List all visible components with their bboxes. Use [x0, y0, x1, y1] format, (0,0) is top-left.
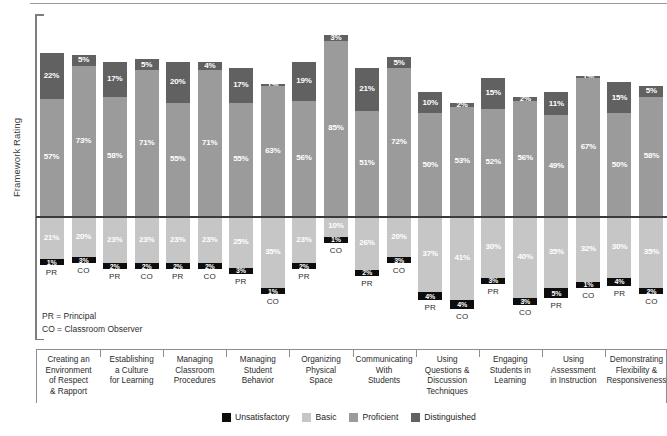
segment-proficient: 58% [103, 97, 127, 216]
segment-basic: 23% [135, 216, 159, 263]
chart-legend: UnsatisfactoryBasicProficientDistinguish… [222, 412, 476, 422]
stacked-bar[interactable]: 1%63%35%1% [261, 10, 285, 342]
segment-value-label: 15% [612, 94, 627, 102]
segment-proficient: 71% [198, 70, 222, 216]
segment-value-label: 23% [296, 236, 311, 244]
segment-value-label: 57% [44, 153, 59, 161]
legend-swatch-icon [411, 413, 420, 422]
bar-rater-tag: CO [72, 266, 96, 275]
category-label-line: in Instruction [542, 376, 605, 387]
segment-distinguished: 10% [418, 92, 442, 113]
segment-unsatisfactory: 2% [135, 263, 159, 269]
legend-label: Distinguished [424, 412, 476, 422]
segment-distinguished: 11% [544, 92, 568, 115]
segment-proficient: 53% [450, 107, 474, 216]
segment-value-label: 2% [142, 263, 152, 270]
stacked-bar[interactable]: 20%55%23%2% [166, 10, 190, 342]
segment-basic: 20% [72, 216, 96, 257]
category-label-line: for Learning [100, 376, 163, 387]
stacked-bar[interactable]: 2%56%40%3% [513, 10, 537, 342]
legend-item[interactable]: Unsatisfactory [222, 412, 289, 422]
stacked-bar[interactable]: 11%49%35%5% [544, 10, 568, 342]
legend-label: Proficient [362, 412, 398, 422]
stacked-bar[interactable]: 5%73%20%3% [72, 10, 96, 342]
segment-value-label: 3% [488, 277, 498, 284]
segment-value-label: 35% [265, 248, 280, 256]
stacked-bar[interactable]: 3%85%10%1% [324, 10, 348, 342]
legend-item[interactable]: Distinguished [411, 412, 476, 422]
segment-value-label: 4% [425, 293, 435, 300]
stacked-bar[interactable]: 2%53%41%4% [450, 10, 474, 342]
category-label: Creating anEnvironmentof Respect& Rappor… [37, 350, 100, 404]
segment-basic: 40% [513, 216, 537, 298]
stacked-bar[interactable]: 4%71%23%2% [198, 10, 222, 342]
segment-distinguished: 21% [355, 68, 379, 111]
bar-group: 19%56%23%2%PR3%85%10%1%CO [288, 10, 351, 342]
category-label-line: Learning [479, 376, 542, 387]
category-divider-tick [226, 350, 227, 357]
segment-value-label: 85% [328, 124, 343, 132]
category-label-line: Organizing [289, 355, 352, 366]
segment-value-label: 1% [331, 236, 341, 243]
stacked-bar[interactable]: 5%58%35%2% [639, 10, 663, 342]
legend-item[interactable]: Proficient [349, 412, 398, 422]
segment-value-label: 2% [299, 263, 309, 270]
segment-value-label: 52% [486, 158, 501, 166]
segment-unsatisfactory: 2% [639, 288, 663, 294]
stacked-bar[interactable]: 5%72%20%3% [387, 10, 411, 342]
segment-distinguished: 15% [607, 82, 631, 113]
stacked-bar[interactable]: 21%51%26%2% [355, 10, 379, 342]
segment-unsatisfactory: 4% [418, 292, 442, 300]
category-label: CommunicatingWithStudents [353, 350, 416, 404]
segment-proficient: 67% [576, 78, 600, 216]
category-divider-tick [479, 350, 480, 357]
segment-value-label: 2% [647, 288, 657, 295]
stacked-bar[interactable]: 17%58%23%2% [103, 10, 127, 342]
category-label-line: Managing [226, 355, 289, 366]
bar-rater-tag: CO [513, 308, 537, 317]
segment-unsatisfactory: 3% [387, 257, 411, 263]
stacked-bar[interactable]: 5%71%23%2% [135, 10, 159, 342]
category-label-line: With [353, 366, 416, 377]
stacked-bar[interactable]: 19%56%23%2% [292, 10, 316, 342]
bar-group: 21%51%26%2%PR5%72%20%3%CO [352, 10, 415, 342]
legend-item[interactable]: Basic [302, 412, 336, 422]
segment-value-label: 3% [236, 267, 246, 274]
stacked-bar[interactable]: 10%50%37%4% [418, 10, 442, 342]
segment-proficient: 55% [166, 103, 190, 216]
category-label-line: a Culture [100, 366, 163, 377]
segment-value-label: 17% [107, 75, 122, 83]
legend-swatch-icon [222, 413, 231, 422]
segment-unsatisfactory: 3% [229, 268, 253, 274]
segment-basic: 30% [607, 216, 631, 278]
segment-value-label: 58% [644, 152, 659, 160]
segment-unsatisfactory: 1% [576, 282, 600, 288]
category-divider-tick [353, 350, 354, 357]
bar-rater-tag: PR [607, 289, 631, 298]
category-divider-tick [289, 350, 290, 357]
segment-value-label: 32% [581, 245, 596, 253]
category-label-line: Demonstrating [605, 355, 667, 366]
bar-rater-tag: PR [481, 287, 505, 296]
bar-group: 17%55%25%3%PR1%63%35%1%CO [225, 10, 288, 342]
segment-value-label: 23% [139, 236, 154, 244]
stacked-bar[interactable]: 17%55%25%3% [229, 10, 253, 342]
segment-value-label: 71% [139, 139, 154, 147]
segment-value-label: 1% [583, 281, 593, 288]
segment-unsatisfactory: 1% [40, 259, 64, 265]
segment-distinguished: 17% [103, 62, 127, 97]
segment-value-label: 5% [393, 59, 404, 67]
category-label: UsingAssessmentin Instruction [542, 350, 605, 404]
category-label-line: Responsiveness [605, 376, 667, 387]
segment-distinguished: 5% [72, 55, 96, 65]
segment-value-label: 72% [391, 138, 406, 146]
segment-value-label: 2% [173, 263, 183, 270]
segment-value-label: 26% [359, 239, 374, 247]
segment-value-label: 25% [233, 238, 248, 246]
category-label-line: Engaging [479, 355, 542, 366]
segment-basic: 23% [292, 216, 316, 263]
plot-area: 22%57%21%1%PR5%73%20%3%CO17%58%23%2%PR5%… [36, 10, 667, 342]
segment-value-label: 5% [78, 56, 89, 64]
stacked-bar[interactable]: 22%57%21%1% [40, 10, 64, 342]
segment-proficient: 50% [607, 113, 631, 216]
